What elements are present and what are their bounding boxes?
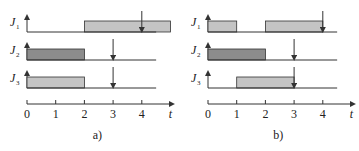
job-row-2: J2 [10,39,156,60]
job-label-subscript: 2 [16,51,20,59]
tick-label: 3 [291,107,297,121]
time-axis: 01234t [24,100,173,121]
job-row-1: J1 [10,11,171,32]
tick-label: 4 [320,107,326,121]
execution-block [237,77,294,88]
tick-label: 2 [262,107,268,121]
job-row-1: J1 [191,11,337,32]
tick-label: 0 [24,107,30,121]
axis-label-t: t [169,107,173,121]
job-label-subscript: 1 [16,23,20,31]
axis-label-t: t [350,107,354,121]
job-row-2: J2 [191,39,337,60]
tick-label: 3 [110,107,116,121]
tick-label: 1 [234,107,240,121]
job-row-3: J3 [10,67,156,88]
tick-label: 2 [81,107,87,121]
panel-caption: b) [273,128,283,142]
execution-block [265,21,322,32]
job-label-subscript: 3 [197,79,201,87]
job-label-subscript: 2 [197,51,201,59]
diagram-canvas: J1J2J301234ta) J1J2J301234tb) [0,0,359,151]
execution-block [27,49,84,60]
job-label-subscript: 1 [197,23,201,31]
tick-label: 4 [139,107,145,121]
execution-block [27,77,84,88]
execution-block [208,21,237,32]
time-axis: 01234t [205,100,354,121]
tick-label: 0 [205,107,211,121]
panel-caption: a) [93,128,102,142]
tick-label: 1 [53,107,59,121]
execution-block [208,49,265,60]
execution-block [84,21,170,32]
job-row-3: J3 [191,67,337,88]
panel-a: J1J2J301234ta) [10,11,173,142]
panel-b: J1J2J301234tb) [191,11,354,142]
job-label-subscript: 3 [16,79,20,87]
